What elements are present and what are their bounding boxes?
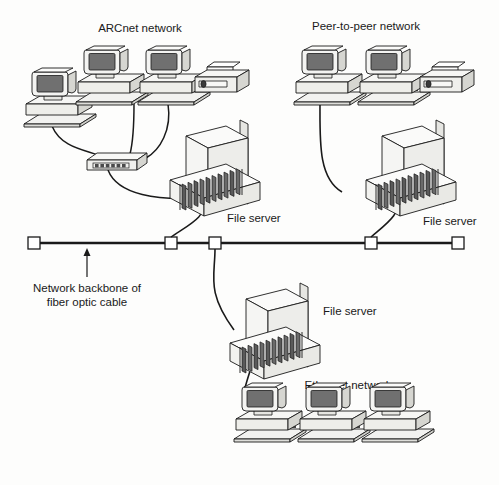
backbone-connector: [209, 237, 221, 249]
ethernet-segment: [214, 249, 434, 442]
peer-workstation-1: [294, 46, 366, 105]
network-diagram-canvas: ARCnet network Peer-to-peer network Ethe…: [0, 0, 499, 485]
backbone-connector: [165, 237, 177, 249]
backbone-connector: [365, 237, 377, 249]
peer-file-server: [366, 120, 456, 216]
backbone-annotation-arrow: [84, 248, 91, 277]
label-arcnet-network: ARCnet network: [98, 22, 182, 34]
ethernet-file-server: [230, 283, 320, 379]
backbone-connector: [28, 237, 40, 249]
fiber-optic-backbone: [28, 237, 464, 277]
label-file-server-ethernet: File server: [323, 305, 377, 317]
arcnet-hub: [87, 153, 147, 170]
arcnet-workstation-2: [76, 46, 148, 105]
diagram-svg: ARCnet network Peer-to-peer network Ethe…: [0, 0, 499, 485]
ethernet-workstation-1: [234, 383, 306, 442]
peer-printer: [420, 62, 474, 92]
arcnet-printer: [195, 62, 249, 92]
label-backbone-line2: fiber optic cable: [47, 296, 128, 308]
label-file-server-arcnet: File server: [227, 212, 281, 224]
peer-to-peer-segment: [294, 46, 474, 237]
ethernet-workstation-2: [298, 383, 370, 442]
backbone-connector: [452, 237, 464, 249]
ethernet-workstation-3: [362, 383, 434, 442]
label-peer-to-peer-network: Peer-to-peer network: [312, 20, 420, 32]
peer-workstation-2: [358, 46, 430, 105]
label-backbone-line1: Network backbone of: [33, 282, 142, 294]
arcnet-segment: [24, 46, 260, 237]
arcnet-file-server: [170, 120, 260, 216]
label-file-server-peer: File server: [423, 215, 477, 227]
